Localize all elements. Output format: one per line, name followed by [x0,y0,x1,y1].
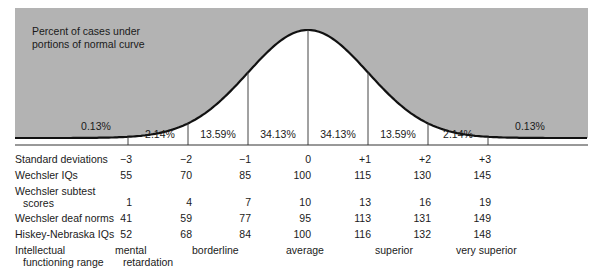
cell: 100 [271,169,311,181]
range-mental-retardation: mental retardation [115,244,173,268]
cell: 59 [152,212,192,224]
row-label-wechsler-iq: Wechsler IQs [15,169,78,181]
cell: 131 [391,212,431,224]
cell: 145 [451,169,491,181]
row-label-subtest-line2: scores [15,197,95,209]
cell: +1 [331,153,371,165]
cell: 55 [92,169,132,181]
cell: 100 [271,228,311,240]
pct-right-tail: 0.13% [515,120,545,132]
cell: 4 [152,196,192,208]
cell: 52 [92,228,132,240]
range-superior: superior [375,244,413,256]
cell: 10 [271,196,311,208]
row-label-subtest-line1: Wechsler subtest [15,185,95,197]
caption-line-2: portions of normal curve [32,38,145,51]
cell: 19 [451,196,491,208]
pct-segment-6: 2.14% [443,128,473,140]
cell: 95 [271,212,311,224]
cell: −3 [92,153,132,165]
cell: 16 [391,196,431,208]
pct-segment-3: 34.13% [260,128,296,140]
cell: 130 [391,169,431,181]
cell: 68 [152,228,192,240]
cell: −1 [211,153,251,165]
range-very-superior: very superior [456,244,517,256]
cell: 1 [92,196,132,208]
cell: +2 [391,153,431,165]
cell: 115 [331,169,371,181]
cell: 70 [152,169,192,181]
range-average: average [286,244,324,256]
range-mr-line2: retardation [115,256,173,268]
pct-segment-4: 34.13% [320,128,356,140]
cell: 77 [211,212,251,224]
range-borderline: borderline [192,244,239,256]
caption-line-1: Percent of cases under [32,25,145,38]
range-mr-line1: mental [115,244,173,256]
pct-left-tail: 0.13% [81,120,111,132]
cell: 84 [211,228,251,240]
chart-caption: Percent of cases under portions of norma… [32,25,145,51]
cell: +3 [451,153,491,165]
row-label-functioning-range: Intellectual functioning range [15,244,104,268]
cell: −2 [152,153,192,165]
pct-segment-1: 2.14% [145,128,175,140]
cell: 149 [451,212,491,224]
cell: 41 [92,212,132,224]
row-label-ifr-line2: functioning range [15,256,104,268]
cell: 85 [211,169,251,181]
pct-segment-2: 13.59% [200,128,236,140]
cell: 7 [211,196,251,208]
cell: 148 [451,228,491,240]
cell: 0 [271,153,311,165]
cell: 132 [391,228,431,240]
row-label-subtest: Wechsler subtest scores [15,185,95,209]
pct-segment-5: 13.59% [380,128,416,140]
cell: 13 [331,196,371,208]
cell: 113 [331,212,371,224]
cell: 116 [331,228,371,240]
row-label-ifr-line1: Intellectual [15,244,104,256]
